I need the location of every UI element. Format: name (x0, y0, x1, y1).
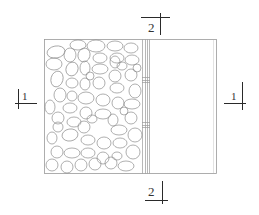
wall-anchor-ticks-upper (142, 78, 150, 83)
section-marker-1-right: 1 (224, 82, 246, 110)
section-label: 1 (231, 90, 237, 102)
section-marker-2-top: 2 (141, 13, 170, 35)
section-label: 2 (148, 184, 155, 199)
main-outline (45, 40, 217, 174)
wall-anchor-ticks-lower (142, 123, 150, 128)
rubble-stone-fill (45, 40, 142, 173)
section-marker-2-bottom: 2 (145, 181, 168, 204)
section-label: 1 (22, 90, 28, 102)
section-marker-1-left: 1 (15, 89, 37, 109)
technical-drawing: 2 2 1 1 (0, 0, 259, 215)
wall-layers (142, 40, 150, 174)
section-label: 2 (148, 20, 155, 35)
